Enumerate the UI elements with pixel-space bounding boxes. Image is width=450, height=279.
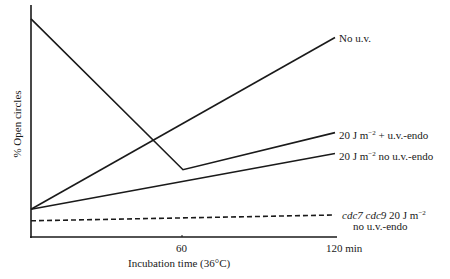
label-text: 20 J m [339, 129, 368, 141]
series-layer [31, 19, 335, 221]
label-exponent: −2 [368, 150, 375, 158]
label-text: no u.v.-endo [376, 150, 433, 162]
series-label-cdc-line2: no u.v.-endo [353, 220, 408, 232]
y-axis-label: % Open circles [11, 69, 23, 179]
label-text: 20 J m [339, 150, 368, 162]
series-line-3 [31, 215, 335, 221]
label-exponent: −2 [418, 209, 425, 217]
label-exponent: −2 [368, 129, 375, 137]
series-label-cdc: cdc7 cdc9 20 J m−2 [342, 207, 426, 221]
series-label-no-uv: No u.v. [339, 32, 371, 44]
series-label-no-endo: 20 J m−2 no u.v.-endo [339, 148, 433, 162]
x-tick-label-120: 120 min [326, 242, 362, 254]
series-line-1 [31, 19, 335, 170]
series-label-uv-endo: 20 J m−2 + u.v.-endo [339, 127, 428, 141]
x-axis-label: Incubation time (36°C) [128, 257, 230, 269]
x-tick-label-60: 60 [176, 242, 187, 254]
series-line-2 [31, 154, 335, 210]
label-text: + u.v.-endo [376, 129, 429, 141]
